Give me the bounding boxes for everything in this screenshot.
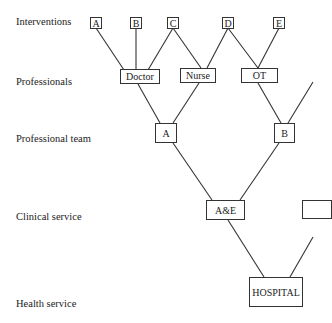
intervention-node-e: E — [273, 17, 285, 29]
intervention-node-a: A — [90, 17, 102, 29]
clinical-node-ae: A&E — [206, 200, 245, 220]
team-node-a: A — [155, 123, 177, 143]
team-node-b: B — [274, 123, 295, 143]
intervention-node-b: B — [130, 17, 142, 29]
professional-node-ot: OT — [241, 68, 278, 83]
professional-node-nurse: Nurse — [180, 68, 216, 83]
intervention-node-d: D — [222, 17, 234, 29]
clinical-node-partial — [302, 200, 332, 219]
health-node-hospital: HOSPITAL — [249, 277, 303, 307]
professional-node-doctor: Doctor — [120, 69, 160, 84]
intervention-node-c: C — [167, 17, 179, 29]
